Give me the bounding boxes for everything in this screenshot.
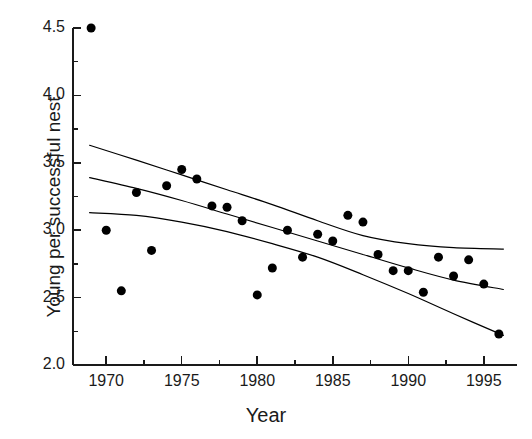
x-tick-label: 1975 xyxy=(152,372,212,390)
x-tick-label: 1970 xyxy=(76,372,136,390)
data-point xyxy=(162,181,171,190)
data-point xyxy=(117,286,126,295)
data-point xyxy=(147,246,156,255)
data-points-group xyxy=(87,24,504,339)
data-point xyxy=(328,236,337,245)
data-point xyxy=(207,201,216,210)
data-point xyxy=(238,216,247,225)
y-tick-label: 4.5 xyxy=(19,18,65,36)
x-tick-label: 1980 xyxy=(227,372,287,390)
data-point xyxy=(404,266,413,275)
x-tick-label: 1985 xyxy=(303,372,363,390)
data-point xyxy=(268,263,277,272)
data-point xyxy=(298,253,307,262)
y-axis-title: Young per successful nest xyxy=(43,57,65,357)
upper-confidence-band xyxy=(90,145,504,249)
data-point xyxy=(192,174,201,183)
data-point xyxy=(494,329,503,338)
data-point xyxy=(389,266,398,275)
data-point xyxy=(87,24,96,33)
data-point xyxy=(374,250,383,259)
data-point xyxy=(177,165,186,174)
axes-group xyxy=(73,28,517,365)
data-point xyxy=(102,226,111,235)
data-point xyxy=(358,218,367,227)
data-point xyxy=(223,203,232,212)
regression-line xyxy=(90,178,504,290)
data-point xyxy=(132,188,141,197)
y-tick-label: 2.0 xyxy=(19,355,65,373)
x-axis-title: Year xyxy=(0,404,532,427)
x-tick-label: 1990 xyxy=(378,372,438,390)
lower-confidence-band xyxy=(90,213,504,336)
data-point xyxy=(343,211,352,220)
data-point xyxy=(479,280,488,289)
data-point xyxy=(434,253,443,262)
x-tick-label: 1995 xyxy=(454,372,514,390)
data-point xyxy=(449,272,458,281)
scatter-plot-figure: 2.02.53.03.54.04.5 197019751980198519901… xyxy=(0,0,532,439)
data-point xyxy=(464,255,473,264)
data-point xyxy=(313,230,322,239)
trend-lines-group xyxy=(90,145,504,335)
data-point xyxy=(419,288,428,297)
data-point xyxy=(283,226,292,235)
data-point xyxy=(253,290,262,299)
